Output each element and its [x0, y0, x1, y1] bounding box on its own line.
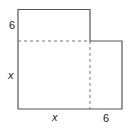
label-top-height: 6	[9, 19, 15, 31]
label-left-side: x	[7, 69, 14, 81]
l-shape-diagram: 6 x x 6	[0, 0, 132, 134]
label-bottom-left: x	[51, 111, 58, 123]
label-bottom-right: 6	[103, 112, 109, 124]
shape-outline	[18, 10, 122, 110]
